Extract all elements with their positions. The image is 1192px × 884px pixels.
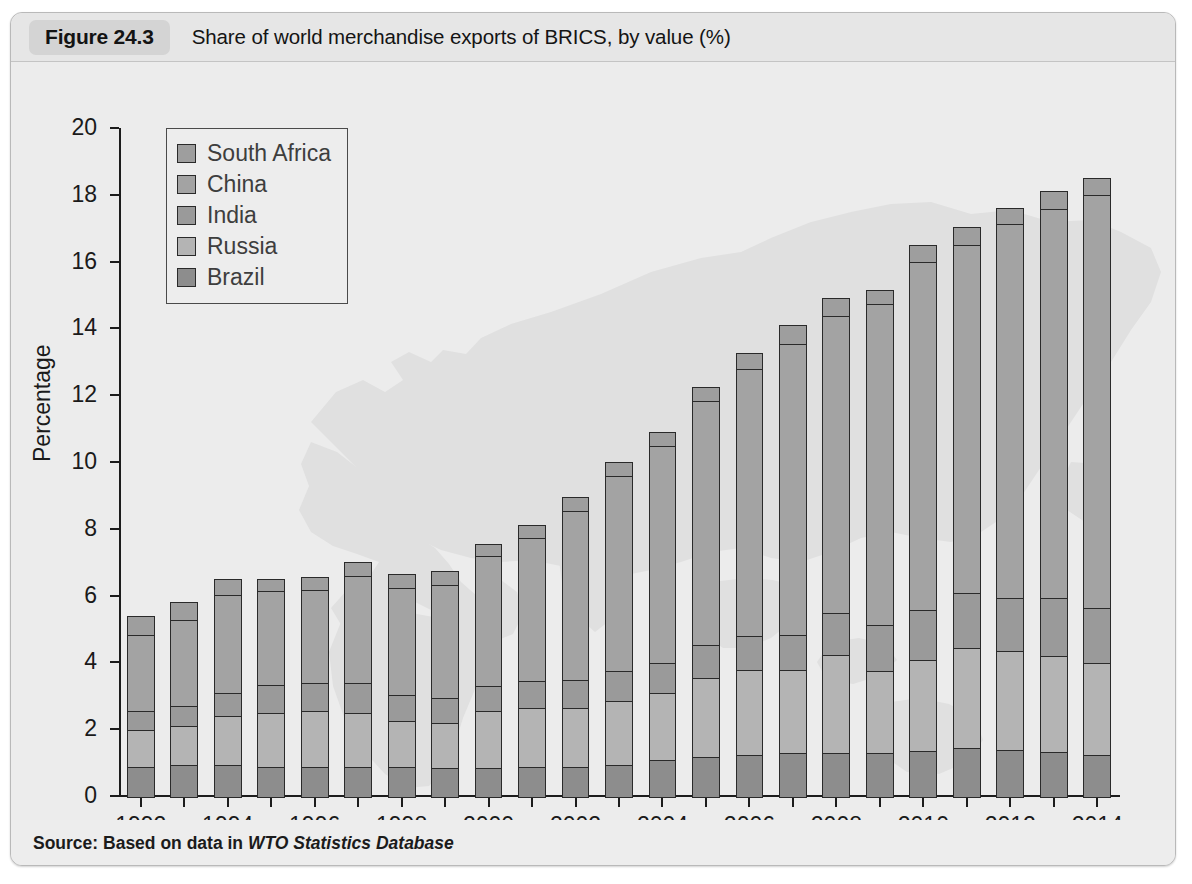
bar-segment[interactable]: [127, 711, 155, 731]
bar-segment[interactable]: [605, 671, 633, 703]
bar-group[interactable]: [822, 128, 850, 796]
bar-segment[interactable]: [170, 764, 198, 797]
bar-segment[interactable]: [562, 497, 590, 512]
bar-segment[interactable]: [1083, 662, 1111, 755]
bar-segment[interactable]: [822, 315, 850, 614]
bar-segment[interactable]: [736, 669, 764, 756]
bar-segment[interactable]: [214, 764, 242, 797]
bar-segment[interactable]: [822, 298, 850, 316]
bar-segment[interactable]: [562, 679, 590, 709]
bar-segment[interactable]: [692, 400, 720, 645]
bar-segment[interactable]: [909, 751, 937, 798]
bar-segment[interactable]: [518, 707, 546, 767]
bar-segment[interactable]: [866, 624, 894, 672]
bar-segment[interactable]: [214, 716, 242, 766]
bar-segment[interactable]: [475, 686, 503, 713]
bar-segment[interactable]: [953, 592, 981, 649]
bar-segment[interactable]: [692, 756, 720, 798]
bar-segment[interactable]: [692, 387, 720, 402]
bar-segment[interactable]: [301, 711, 329, 768]
bar-group[interactable]: [605, 128, 633, 796]
bar-segment[interactable]: [170, 726, 198, 766]
bar-segment[interactable]: [170, 706, 198, 728]
bar-group[interactable]: [127, 128, 155, 796]
legend-item-russia[interactable]: Russia: [177, 231, 331, 262]
bar-segment[interactable]: [257, 591, 285, 686]
bar-segment[interactable]: [518, 537, 546, 682]
bar-segment[interactable]: [388, 574, 416, 589]
bar-segment[interactable]: [388, 721, 416, 768]
bar-segment[interactable]: [736, 368, 764, 637]
bar-segment[interactable]: [822, 612, 850, 655]
bar-segment[interactable]: [692, 677, 720, 757]
bar-segment[interactable]: [518, 681, 546, 709]
bar-group[interactable]: [1083, 128, 1111, 796]
bar-segment[interactable]: [822, 753, 850, 798]
bar-segment[interactable]: [301, 577, 329, 590]
bar-segment[interactable]: [909, 245, 937, 263]
bar-group[interactable]: [562, 128, 590, 796]
bar-segment[interactable]: [909, 609, 937, 661]
bar-segment[interactable]: [388, 766, 416, 798]
bar-segment[interactable]: [996, 749, 1024, 797]
bar-segment[interactable]: [909, 262, 937, 611]
bar-segment[interactable]: [344, 713, 372, 768]
bar-group[interactable]: [518, 128, 546, 796]
bar-segment[interactable]: [475, 711, 503, 769]
bar-segment[interactable]: [388, 587, 416, 695]
bar-segment[interactable]: [127, 616, 155, 636]
bar-segment[interactable]: [605, 475, 633, 672]
bar-segment[interactable]: [953, 748, 981, 798]
bar-segment[interactable]: [866, 290, 894, 305]
bar-group[interactable]: [909, 128, 937, 796]
bar-segment[interactable]: [127, 729, 155, 767]
bar-segment[interactable]: [1083, 195, 1111, 609]
bar-segment[interactable]: [953, 227, 981, 247]
bar-segment[interactable]: [431, 571, 459, 586]
bar-segment[interactable]: [736, 754, 764, 797]
bar-segment[interactable]: [779, 669, 807, 754]
bar-segment[interactable]: [649, 759, 677, 797]
bar-segment[interactable]: [1083, 607, 1111, 664]
bar-segment[interactable]: [779, 634, 807, 671]
bar-segment[interactable]: [1083, 178, 1111, 196]
bar-segment[interactable]: [214, 692, 242, 717]
bar-segment[interactable]: [909, 659, 937, 752]
bar-group[interactable]: [431, 128, 459, 796]
bar-group[interactable]: [953, 128, 981, 796]
bar-segment[interactable]: [344, 766, 372, 798]
bar-segment[interactable]: [301, 589, 329, 684]
bar-segment[interactable]: [518, 525, 546, 538]
bar-segment[interactable]: [170, 619, 198, 707]
bar-segment[interactable]: [431, 768, 459, 798]
bar-segment[interactable]: [605, 764, 633, 797]
bar-group[interactable]: [475, 128, 503, 796]
bar-segment[interactable]: [1040, 656, 1068, 753]
bar-segment[interactable]: [779, 343, 807, 635]
bar-segment[interactable]: [1083, 754, 1111, 797]
bar-segment[interactable]: [475, 556, 503, 688]
bar-segment[interactable]: [344, 576, 372, 684]
bar-group[interactable]: [388, 128, 416, 796]
bar-segment[interactable]: [344, 562, 372, 577]
bar-segment[interactable]: [257, 713, 285, 768]
bar-group[interactable]: [779, 128, 807, 796]
bar-segment[interactable]: [301, 682, 329, 712]
legend-item-brazil[interactable]: Brazil: [177, 262, 331, 293]
bar-segment[interactable]: [257, 684, 285, 714]
bar-segment[interactable]: [736, 353, 764, 370]
bar-segment[interactable]: [736, 636, 764, 671]
bar-group[interactable]: [996, 128, 1024, 796]
bar-segment[interactable]: [996, 597, 1024, 652]
bar-segment[interactable]: [605, 462, 633, 477]
bar-segment[interactable]: [649, 445, 677, 664]
bar-segment[interactable]: [170, 602, 198, 620]
bar-group[interactable]: [866, 128, 894, 796]
bar-segment[interactable]: [431, 584, 459, 699]
legend-item-china[interactable]: China: [177, 169, 331, 200]
bar-segment[interactable]: [866, 671, 894, 754]
bar-segment[interactable]: [431, 697, 459, 724]
bar-segment[interactable]: [649, 662, 677, 694]
bar-segment[interactable]: [518, 766, 546, 798]
bar-segment[interactable]: [822, 654, 850, 754]
